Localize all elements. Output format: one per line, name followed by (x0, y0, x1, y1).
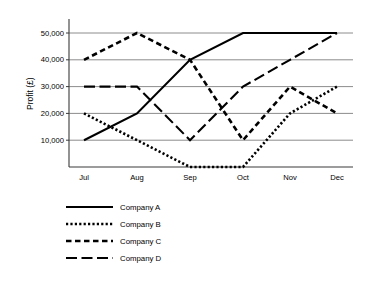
y-tick-label: 40,000 (41, 55, 64, 64)
legend-label: Company B (120, 220, 161, 229)
x-tick-label: Oct (237, 173, 250, 182)
chart-canvas: Profit (£) 50,000 40,000 30,000 20,000 1… (0, 0, 369, 284)
x-tick-label: Nov (283, 173, 297, 182)
legend-item-company-c: Company C (66, 237, 162, 246)
legend-label: Company D (120, 254, 162, 263)
x-tick-label: Sep (183, 173, 197, 182)
legend-label: Company A (120, 203, 161, 212)
legend-label: Company C (120, 237, 162, 246)
y-axis-tick-labels: 50,000 40,000 30,000 20,000 10,000 (41, 29, 64, 145)
chart-legend: Company A Company B Company C Company D (66, 203, 162, 263)
y-tick-label: 20,000 (41, 109, 64, 118)
y-tick-label: 50,000 (41, 29, 64, 38)
legend-item-company-d: Company D (66, 254, 162, 263)
line-chart-figure: Profit (£) 50,000 40,000 30,000 20,000 1… (0, 0, 369, 284)
legend-item-company-b: Company B (66, 220, 161, 229)
x-axis-tick-labels: Jul Aug Sep Oct Nov Dec (79, 173, 344, 182)
y-tick-label: 10,000 (41, 136, 64, 145)
y-tick-label: 30,000 (41, 82, 64, 91)
x-tick-label: Dec (330, 173, 344, 182)
x-tick-label: Aug (130, 173, 144, 182)
series-line-company-b (84, 87, 337, 167)
y-axis-title: Profit (£) (25, 77, 35, 110)
x-tick-label: Jul (79, 173, 89, 182)
legend-item-company-a: Company A (66, 203, 161, 212)
